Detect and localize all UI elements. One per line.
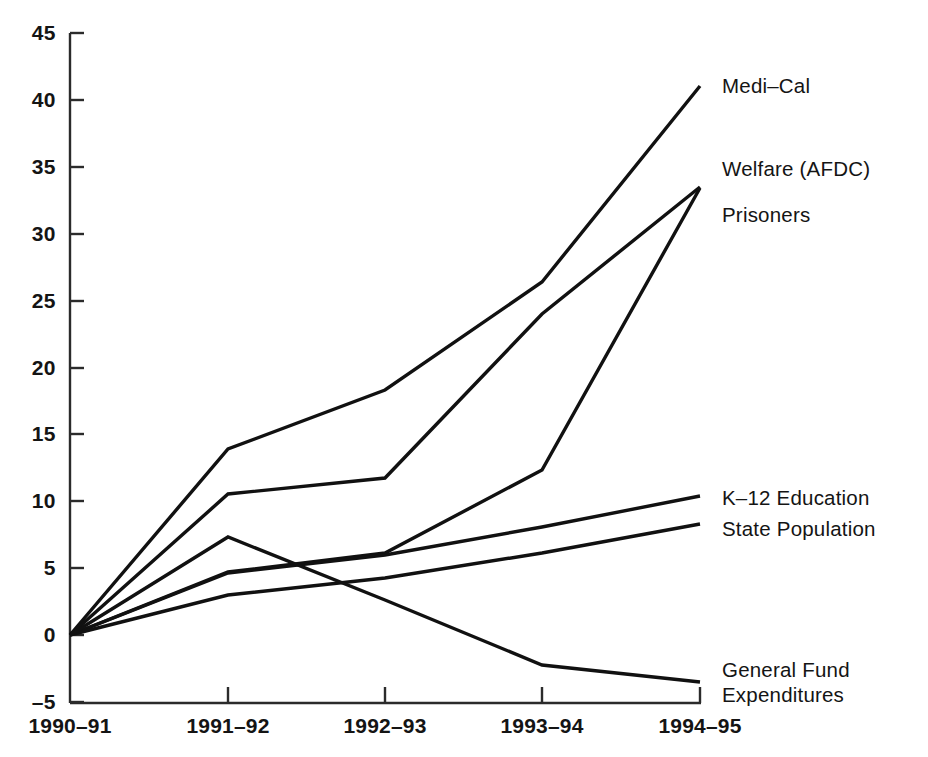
- x-tick-label-1993-94: 1993–94: [500, 714, 583, 738]
- series-label-welfare: Welfare (AFDC): [722, 156, 870, 181]
- y-tick-label-45: 45: [4, 21, 56, 45]
- y-tick-label-35: 35: [4, 155, 56, 179]
- y-tick-label-neg5: –5: [4, 690, 56, 714]
- series-label-k12-education: K–12 Education: [722, 485, 870, 510]
- x-tick-marks: [228, 687, 700, 703]
- series-label-expenditures: Expenditures: [722, 682, 844, 707]
- plot-area: [0, 0, 928, 757]
- y-tick-label-5: 5: [4, 556, 56, 580]
- series-label-state-population: State Population: [722, 516, 876, 541]
- line-chart: 45 40 35 30 25 20 15 10 5 0 –5 1990–91 1…: [0, 0, 928, 757]
- series-lines: [70, 86, 700, 682]
- x-tick-label-1991-92: 1991–92: [186, 714, 269, 738]
- series-label-prisoners: Prisoners: [722, 202, 810, 227]
- series-line-prisoners: [70, 188, 700, 635]
- series-label-general-fund: General Fund: [722, 657, 850, 682]
- y-tick-label-15: 15: [4, 422, 56, 446]
- x-tick-label-1994-95: 1994–95: [658, 714, 741, 738]
- y-tick-label-40: 40: [4, 88, 56, 112]
- y-tick-marks: [70, 33, 84, 702]
- y-tick-label-10: 10: [4, 489, 56, 513]
- y-tick-label-25: 25: [4, 289, 56, 313]
- series-line-welfare: [70, 187, 700, 635]
- y-tick-label-20: 20: [4, 356, 56, 380]
- series-line-population: [70, 524, 700, 635]
- x-tick-label-1990-91: 1990–91: [28, 714, 111, 738]
- axis-lines: [70, 33, 701, 703]
- y-tick-label-30: 30: [4, 222, 56, 246]
- y-tick-label-0: 0: [4, 623, 56, 647]
- x-tick-label-1992-93: 1992–93: [343, 714, 426, 738]
- series-label-medical: Medi–Cal: [722, 73, 810, 98]
- series-line-k12: [70, 496, 700, 635]
